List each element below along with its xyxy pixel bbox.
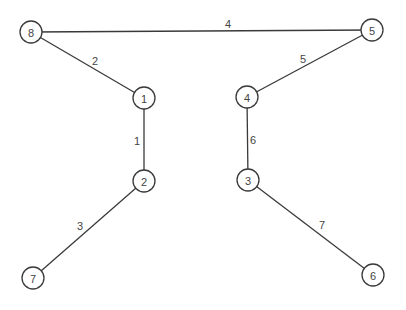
edge-labels-layer: 4213567 (77, 18, 325, 232)
edge-8-1 (31, 32, 144, 98)
edge-weight-label: 3 (77, 220, 83, 232)
edge-5-4 (247, 30, 372, 97)
node-label: 5 (369, 25, 375, 37)
edge-weight-label: 6 (250, 134, 256, 146)
edges-layer (31, 30, 373, 278)
edge-8-5 (31, 30, 372, 32)
edge-weight-label: 4 (225, 18, 231, 30)
graph-node-2: 2 (133, 170, 155, 192)
node-label: 4 (244, 92, 250, 104)
graph-node-6: 6 (362, 264, 384, 286)
node-label: 2 (141, 176, 147, 188)
node-label: 1 (141, 93, 147, 105)
node-label: 6 (370, 270, 376, 282)
graph-node-4: 4 (236, 86, 258, 108)
graph-svg: 4213567 81275436 (0, 0, 406, 310)
nodes-layer: 81275436 (20, 19, 384, 289)
graph-node-1: 1 (133, 87, 155, 109)
edge-weight-label: 7 (319, 219, 325, 231)
edge-2-7 (33, 181, 144, 278)
node-label: 7 (30, 273, 36, 285)
edge-weight-label: 2 (92, 55, 98, 67)
edge-weight-label: 1 (134, 135, 140, 147)
edge-weight-label: 5 (300, 53, 306, 65)
edge-3-6 (248, 180, 373, 275)
graph-node-5: 5 (361, 19, 383, 41)
graph-diagram: 4213567 81275436 (0, 0, 406, 310)
edge-4-3 (247, 97, 248, 180)
graph-node-7: 7 (22, 267, 44, 289)
node-label: 3 (245, 175, 251, 187)
graph-node-3: 3 (237, 169, 259, 191)
graph-node-8: 8 (20, 21, 42, 43)
node-label: 8 (28, 27, 34, 39)
